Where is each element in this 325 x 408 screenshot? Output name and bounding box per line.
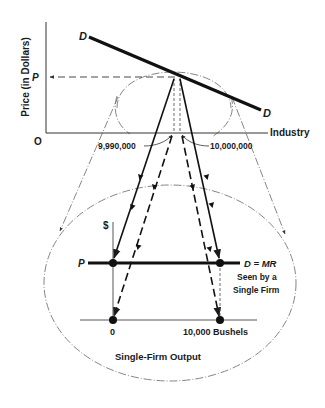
quantity-9990000-label: 9,990,000 — [98, 141, 136, 151]
firm-origin-label: 0 — [110, 327, 115, 337]
magnifier-lens — [44, 72, 296, 381]
diagram-canvas: Price (in Dollars) P O D D Industry 9,99… — [0, 0, 325, 408]
mid-arrowhead — [209, 202, 215, 208]
firm-price-label: P — [78, 258, 85, 269]
cone-right-line — [232, 97, 285, 234]
industry-x-axis-label: Industry — [270, 127, 310, 138]
firm-demand-mr-label: D = MR — [244, 258, 277, 269]
mid-arrowhead — [136, 244, 142, 250]
point-10000-bushels — [216, 316, 224, 324]
dashed-arrow-right — [182, 136, 219, 316]
lens-right-inner-arc — [212, 96, 232, 137]
demand-label-bottom: D — [263, 107, 271, 119]
quantity-10000000-label: 10,000,000 — [210, 141, 253, 151]
leader-10000000 — [182, 135, 209, 146]
point-price-zero-output — [109, 259, 117, 267]
firm-quantity-label: 10,000 Bushels — [183, 327, 248, 337]
industry-demand-curve — [89, 37, 261, 110]
firm-graph — [80, 222, 257, 324]
projection-arrows — [114, 79, 219, 316]
mid-arrowhead — [207, 246, 213, 252]
industry-origin-label: O — [34, 136, 42, 147]
firm-demand-note-line2: Single Firm — [233, 285, 280, 295]
solid-arrow-right — [180, 79, 219, 258]
demand-label-top: D — [79, 30, 87, 42]
solid-arrow-left — [114, 79, 174, 258]
firm-graph-title: Single-Firm Output — [115, 351, 202, 362]
mid-arrowhead — [204, 174, 210, 180]
cone-left-line — [60, 97, 118, 231]
point-price-full-output — [216, 259, 224, 267]
industry-price-label: P — [32, 72, 39, 83]
point-origin — [109, 316, 117, 324]
industry-y-axis-label: Price (in Dollars) — [20, 37, 31, 116]
leader-9990000 — [144, 135, 172, 146]
dashed-arrow-left — [114, 136, 172, 316]
firm-y-axis-label: $ — [103, 220, 109, 231]
firm-demand-note-line1: Seen by a — [237, 272, 277, 282]
